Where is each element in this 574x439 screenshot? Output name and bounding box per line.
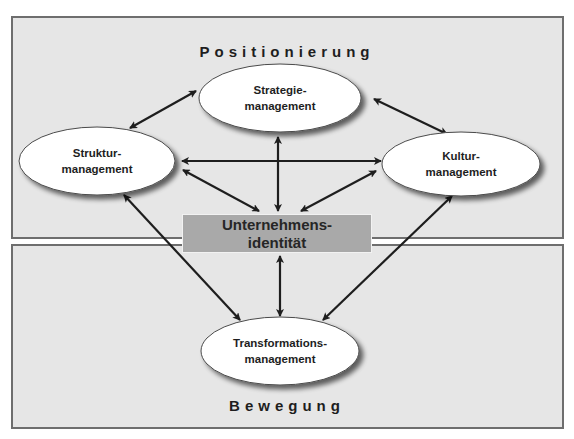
center-label-line1: Unternehmens- xyxy=(183,216,371,234)
strategie-node-label: Strategie- management xyxy=(245,82,316,114)
arrow-struktur-strategie xyxy=(130,91,196,128)
strategie-label-line2: management xyxy=(245,98,316,114)
arrow-strategie-kultur xyxy=(374,99,447,134)
unternehmensidentitaet-box: Unternehmens- identität xyxy=(182,214,372,253)
arrow-kultur-center xyxy=(301,171,376,211)
kultur-node-label: Kultur- management xyxy=(426,148,497,180)
struktur-node-label: Struktur- management xyxy=(62,145,133,177)
transformation-node-label: Transformations- management xyxy=(233,335,327,367)
struktur-label-line1: Struktur- xyxy=(62,145,133,161)
center-label-line2: identität xyxy=(183,234,371,252)
strategie-label-line1: Strategie- xyxy=(245,82,316,98)
arrow-struktur-center xyxy=(183,170,259,211)
transformation-label-line2: management xyxy=(233,351,327,367)
kultur-label-line2: management xyxy=(426,164,497,180)
struktur-label-line2: management xyxy=(62,161,133,177)
kultur-label-line1: Kultur- xyxy=(426,148,497,164)
transformation-label-line1: Transformations- xyxy=(233,335,327,351)
